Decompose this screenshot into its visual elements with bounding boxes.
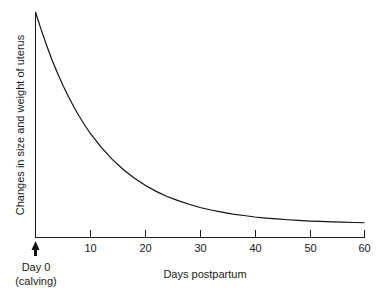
uterine-involution-chart: 10 20 30 40 50 60 Day 0 (calving) Days p… [0,0,387,298]
x-tick-label-60: 60 [358,242,370,254]
y-axis-title: Changes in size and weight of uterus [14,34,26,215]
chart-figure: 10 20 30 40 50 60 Day 0 (calving) Days p… [0,0,387,298]
x-tick-label-20: 20 [139,242,151,254]
day-zero-label-line1: Day 0 [22,261,51,273]
x-tick-label-10: 10 [84,242,96,254]
x-tick-label-50: 50 [304,242,316,254]
day-zero-label-line2: (calving) [15,275,57,287]
x-tick-label-30: 30 [194,242,206,254]
x-axis-title: Days postpartum [163,268,246,280]
x-tick-label-40: 40 [249,242,261,254]
